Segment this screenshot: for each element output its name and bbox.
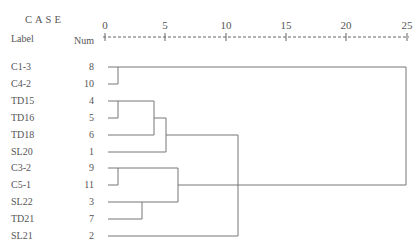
dendrogram-branches: [108, 67, 406, 236]
x-axis: [103, 33, 409, 41]
dendrogram-plot: [0, 0, 419, 249]
